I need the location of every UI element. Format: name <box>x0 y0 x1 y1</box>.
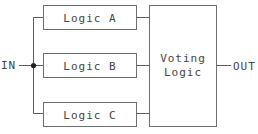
input-label: IN <box>1 59 16 72</box>
voter-label-line2: Logic <box>164 66 202 79</box>
logic-block-a: Logic A <box>44 6 137 30</box>
voting-logic-diagram: IN Logic A Logic B Logic C Voting Logic … <box>0 0 258 134</box>
voter-label-line1: Voting <box>160 52 206 65</box>
voting-logic-block: Voting Logic <box>150 6 217 127</box>
logic-block-label: Logic B <box>63 60 116 73</box>
junction-dot <box>31 63 36 68</box>
logic-block-b: Logic B <box>44 54 137 78</box>
logic-block-c: Logic C <box>44 103 137 127</box>
output-label: OUT <box>233 60 256 73</box>
logic-block-label: Logic C <box>63 109 116 122</box>
logic-block-label: Logic A <box>63 12 116 25</box>
